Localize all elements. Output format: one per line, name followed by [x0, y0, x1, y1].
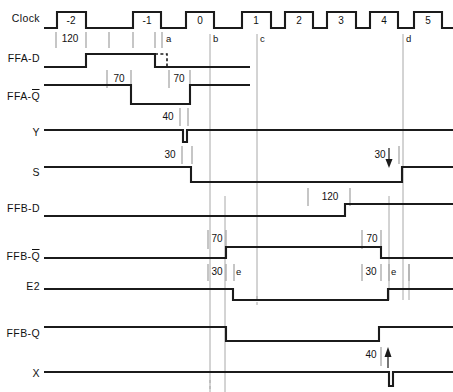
annotation-70-ffb-fall: 70: [366, 233, 378, 244]
annotation-70-ffb-rise: 70: [211, 233, 223, 244]
annotation-70-ffa-fall: 70: [173, 73, 185, 84]
signal-label-ffa-qbar-group: FFA-Q: [7, 90, 40, 103]
marker-letter-b: b: [213, 33, 218, 44]
waveform-s: [44, 167, 453, 182]
waveform-clock: -2 -1 0 1 2 3 4 5: [44, 12, 453, 28]
signal-label-ffb-d: FFB-D: [7, 202, 40, 214]
arrow-x-pulse-up-icon: [385, 347, 392, 368]
clock-number-2: 2: [296, 15, 302, 26]
annotation-30-e2-fall: 30: [211, 266, 223, 277]
waveform-ffa-d: [44, 54, 250, 67]
annotation-120-first: 120: [62, 33, 79, 44]
waveform-ffb-q: [44, 327, 453, 341]
waveform-ffa-qbar: [44, 85, 250, 104]
waveform-ffb-qbar: [44, 247, 453, 258]
signal-label-y: Y: [33, 126, 40, 138]
signal-label-x: X: [33, 367, 40, 379]
waveform-e2: [44, 289, 453, 300]
clock-number-0: 0: [197, 15, 203, 26]
annotation-120-ffb-d: 120: [322, 191, 339, 202]
signal-label-ffa-d: FFA-D: [8, 52, 40, 64]
waveform-x-path: [44, 372, 453, 386]
annotation-texts: 120 a b c d 70 70 40 30 30 120 70 70 30 …: [62, 33, 412, 360]
annotation-30-s-rise: 30: [374, 149, 386, 160]
waveform-ffb-qbar-path: [44, 247, 453, 258]
waveform-ffb-d-path: [44, 204, 453, 216]
signal-label-ffb-qbar: FFB-Q: [7, 250, 41, 262]
waveform-e2-path: [44, 289, 453, 300]
clock-number-4: 4: [381, 15, 387, 26]
clock-number-1: 1: [253, 15, 259, 26]
clock-number-5: 5: [425, 15, 431, 26]
waveform-y-path: [44, 130, 453, 142]
signal-label-e2: E2: [26, 280, 40, 292]
marker-letter-e-second: e: [391, 266, 396, 277]
signal-label-ffb-qbar-group: FFB-Q: [7, 250, 41, 263]
marker-letter-c: c: [260, 33, 265, 44]
annotation-40-y: 40: [162, 111, 174, 122]
signal-label-clock: Clock: [12, 12, 41, 24]
signal-label-s: S: [33, 166, 40, 178]
annotation-40-x: 40: [365, 349, 377, 360]
waveform-ffa-qbar-path: [44, 85, 250, 104]
signal-label-ffb-q: FFB-Q: [7, 327, 41, 339]
timing-diagram-canvas: Clock FFA-D FFA-Q Y S FFB-D FFB-Q E2 FFB…: [0, 0, 453, 392]
signal-labels: Clock FFA-D FFA-Q Y S FFB-D FFB-Q E2 FFB…: [7, 12, 41, 379]
annotation-30-s-fall: 30: [164, 149, 176, 160]
annotation-70-ffa-rise: 70: [113, 73, 125, 84]
clock-cycle-numbers: -2 -1 0 1 2 3 4 5: [67, 15, 432, 26]
waveform-s-path: [44, 167, 453, 182]
signal-label-ffa-qbar: FFA-Q: [7, 90, 40, 102]
waveform-ffa-d-dashed-extension: [155, 54, 167, 67]
waveform-y: [44, 130, 453, 142]
measurement-ticks: [56, 32, 409, 366]
annotation-30-e2-rise: 30: [365, 266, 377, 277]
clock-number-3: 3: [338, 15, 344, 26]
clock-number-m1: -1: [143, 15, 152, 26]
waveform-clock-path: [44, 12, 453, 28]
waveform-ffb-d: [44, 204, 453, 216]
timing-diagram-root: Clock FFA-D FFA-Q Y S FFB-D FFB-Q E2 FFB…: [0, 0, 453, 392]
marker-letter-a: a: [166, 33, 172, 44]
waveform-ffb-q-path: [44, 327, 453, 341]
marker-letter-e-first: e: [236, 266, 241, 277]
arrow-s-rise-down-icon: [386, 148, 393, 168]
clock-number-m2: -2: [67, 15, 76, 26]
marker-letter-d: d: [406, 33, 411, 44]
waveform-x: [44, 372, 453, 386]
waveform-ffa-d-path: [44, 54, 250, 67]
